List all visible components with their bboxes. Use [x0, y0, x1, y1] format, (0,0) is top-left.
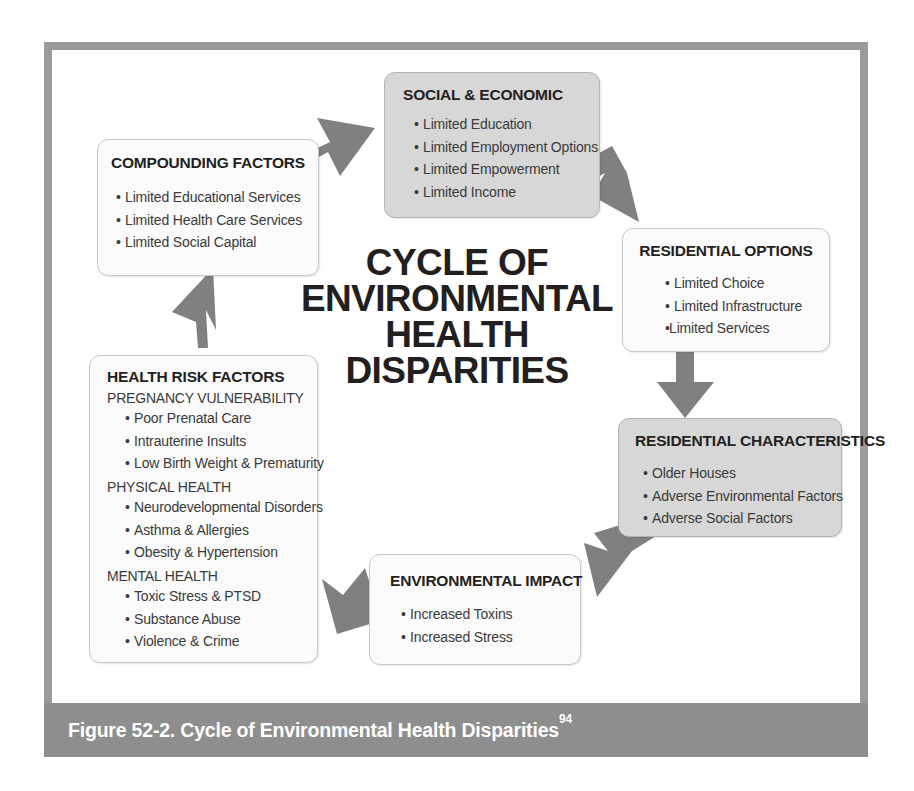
bullet-glyph: • [125, 407, 134, 430]
list-item-label: Limited Social Capital [125, 234, 256, 250]
list-item-label: Obesity & Hypertension [134, 544, 278, 560]
list-item: •Toxic Stress & PTSD [125, 585, 317, 608]
node-environmental-impact-bullets: •Increased Toxins •Increased Stress [390, 603, 580, 648]
figure-page: CYCLE OF ENVIRONMENTAL HEALTH DISPARITIE… [0, 0, 914, 791]
list-item-label: Limited Choice [674, 275, 765, 291]
list-item: •Limited Health Care Services [116, 209, 318, 232]
bullet-glyph: • [125, 430, 134, 453]
figure-caption-superscript: 94 [559, 712, 572, 726]
node-social-economic[interactable]: SOCIAL & ECONOMIC •Limited Education •Li… [384, 72, 600, 218]
center-title-line-4: DISPARITIES [297, 353, 617, 389]
list-item: •Intrauterine Insults [125, 430, 317, 453]
bullet-glyph: • [125, 519, 134, 542]
list-item-label: Limited Services [669, 320, 769, 336]
bullet-glyph: • [401, 603, 410, 626]
list-item: •Limited Empowerment [414, 158, 599, 181]
node-residential-options-bullets: •Limited Choice •Limited Infrastructure … [623, 272, 829, 340]
bullet-glyph: • [125, 585, 134, 608]
bullet-glyph: • [125, 541, 134, 564]
group-bullets-physical-health: •Neurodevelopmental Disorders •Asthma & … [107, 496, 317, 564]
center-title-line-1: CYCLE OF [297, 245, 617, 281]
bullet-glyph: • [116, 186, 125, 209]
center-title-line-3: HEALTH [297, 317, 617, 353]
node-social-economic-title: SOCIAL & ECONOMIC [403, 86, 599, 104]
list-item-label: Intrauterine Insults [134, 433, 246, 449]
list-item-label: Neurodevelopmental Disorders [134, 499, 323, 515]
list-item: •Limited Education [414, 113, 599, 136]
list-item-label: Adverse Environmental Factors [652, 488, 843, 504]
node-compounding-factors-title: COMPOUNDING FACTORS [98, 154, 318, 172]
node-residential-characteristics-bullets: •Older Houses •Adverse Environmental Fac… [635, 462, 841, 530]
list-item: •Obesity & Hypertension [125, 541, 317, 564]
list-item-label: Limited Empowerment [423, 161, 559, 177]
bullet-glyph: • [125, 630, 134, 653]
list-item-label: Limited Employment Options [423, 139, 598, 155]
list-item-label: Limited Infrastructure [674, 298, 802, 314]
list-item-label: Older Houses [652, 465, 736, 481]
node-health-risk-factors-title: HEALTH RISK FACTORS [107, 368, 317, 386]
node-compounding-factors-bullets: •Limited Educational Services •Limited H… [98, 186, 318, 254]
list-item: •Increased Toxins [401, 603, 580, 626]
list-item: •Limited Infrastructure [665, 295, 829, 318]
bullet-glyph: • [125, 452, 134, 475]
list-item-label: Toxic Stress & PTSD [134, 588, 261, 604]
list-item: •Limited Social Capital [116, 231, 318, 254]
list-item: •Violence & Crime [125, 630, 317, 653]
list-item: •Neurodevelopmental Disorders [125, 496, 317, 519]
list-item: •Limited Services [665, 317, 829, 340]
bullet-glyph: • [125, 608, 134, 631]
figure-caption-bar: Figure 52-2. Cycle of Environmental Heal… [44, 703, 868, 757]
list-item: •Increased Stress [401, 626, 580, 649]
bullet-glyph: • [125, 496, 134, 519]
list-item: •Substance Abuse [125, 608, 317, 631]
list-item: •Limited Choice [665, 272, 829, 295]
list-item: •Adverse Environmental Factors [643, 485, 841, 508]
list-item-label: Increased Stress [410, 629, 513, 645]
list-item-label: Limited Health Care Services [125, 212, 302, 228]
list-item: •Limited Income [414, 181, 599, 204]
bullet-glyph: • [414, 158, 423, 181]
group-subhead-mental-health: MENTAL HEALTH [107, 568, 317, 584]
node-health-risk-factors[interactable]: HEALTH RISK FACTORS PREGNANCY VULNERABIL… [89, 355, 318, 663]
node-residential-characteristics-title: RESIDENTIAL CHARACTERISTICS [635, 432, 841, 450]
list-item: •Low Birth Weight & Prematurity [125, 452, 317, 475]
list-item: •Older Houses [643, 462, 841, 485]
bullet-glyph: • [116, 209, 125, 232]
node-residential-characteristics[interactable]: RESIDENTIAL CHARACTERISTICS •Older House… [618, 418, 842, 537]
bullet-glyph: • [643, 485, 652, 508]
list-item-label: Increased Toxins [410, 606, 512, 622]
node-environmental-impact[interactable]: ENVIRONMENTAL IMPACT •Increased Toxins •… [369, 554, 581, 665]
node-environmental-impact-title: ENVIRONMENTAL IMPACT [390, 572, 580, 590]
node-compounding-factors[interactable]: COMPOUNDING FACTORS •Limited Educational… [97, 139, 319, 276]
list-item-label: Low Birth Weight & Prematurity [134, 455, 324, 471]
list-item: •Limited Educational Services [116, 186, 318, 209]
bullet-glyph: • [414, 113, 423, 136]
group-bullets-pregnancy-vulnerability: •Poor Prenatal Care •Intrauterine Insult… [107, 407, 317, 475]
bullet-glyph: • [116, 231, 125, 254]
figure-caption-label: Figure 52-2. Cycle of Environmental Heal… [68, 719, 559, 741]
list-item-label: Limited Income [423, 184, 516, 200]
list-item: •Limited Employment Options [414, 136, 599, 159]
group-bullets-mental-health: •Toxic Stress & PTSD •Substance Abuse •V… [107, 585, 317, 653]
group-subhead-physical-health: PHYSICAL HEALTH [107, 479, 317, 495]
list-item-label: Violence & Crime [134, 633, 240, 649]
list-item-label: Poor Prenatal Care [134, 410, 251, 426]
node-residential-options-title: RESIDENTIAL OPTIONS [623, 242, 829, 260]
figure-caption: Figure 52-2. Cycle of Environmental Heal… [44, 718, 572, 742]
center-title: CYCLE OF ENVIRONMENTAL HEALTH DISPARITIE… [297, 245, 617, 389]
list-item: •Asthma & Allergies [125, 519, 317, 542]
bullet-glyph: • [643, 507, 652, 530]
list-item-label: Adverse Social Factors [652, 510, 793, 526]
bullet-glyph: • [665, 272, 674, 295]
list-item-label: Limited Education [423, 116, 532, 132]
node-residential-options[interactable]: RESIDENTIAL OPTIONS •Limited Choice •Lim… [622, 228, 830, 352]
bullet-glyph: • [643, 462, 652, 485]
center-title-line-2: ENVIRONMENTAL [297, 281, 617, 317]
list-item-label: Limited Educational Services [125, 189, 301, 205]
node-social-economic-bullets: •Limited Education •Limited Employment O… [403, 113, 599, 204]
bullet-glyph: • [401, 626, 410, 649]
list-item-label: Substance Abuse [134, 611, 241, 627]
list-item-label: Asthma & Allergies [134, 522, 249, 538]
list-item: •Adverse Social Factors [643, 507, 841, 530]
list-item: •Poor Prenatal Care [125, 407, 317, 430]
